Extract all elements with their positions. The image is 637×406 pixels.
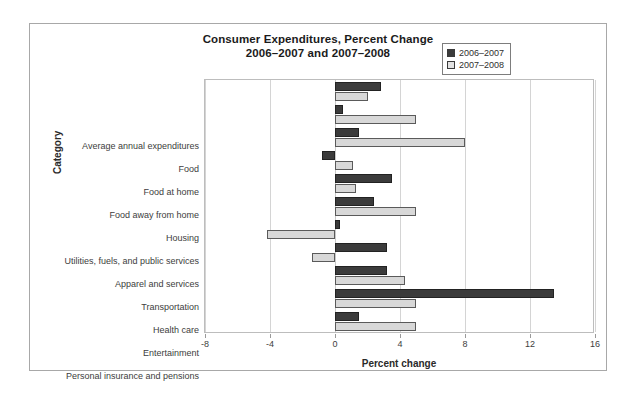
y-axis-label: Food xyxy=(0,164,199,174)
x-tick-label: 16 xyxy=(590,339,600,349)
bar xyxy=(335,197,374,206)
chart-title-line-2: 2006–2007 and 2007–2008 xyxy=(30,46,606,60)
bar xyxy=(335,115,416,124)
x-tick-label: 12 xyxy=(525,339,535,349)
x-tick-mark xyxy=(530,334,531,338)
y-axis-label: Transportation xyxy=(0,302,199,312)
bar xyxy=(312,253,335,262)
x-tick-mark xyxy=(400,334,401,338)
bar xyxy=(335,128,359,137)
bar xyxy=(335,105,343,114)
chart-title-line-1: Consumer Expenditures, Percent Change xyxy=(203,33,434,45)
bar xyxy=(335,266,387,275)
bar xyxy=(322,151,335,160)
y-axis-label: Food away from home xyxy=(0,210,199,220)
bar xyxy=(335,184,356,193)
bar xyxy=(335,289,554,298)
gridline xyxy=(205,80,206,332)
gridline xyxy=(595,80,596,332)
y-axis-label: Health care xyxy=(0,325,199,335)
x-tick-label: -4 xyxy=(266,339,274,349)
x-tick-label: 4 xyxy=(397,339,402,349)
chart-legend: 2006–20072007–2008 xyxy=(442,43,511,75)
y-axis-label: Entertainment xyxy=(0,348,199,358)
bar xyxy=(267,230,335,239)
x-tick-mark xyxy=(335,334,336,338)
bar xyxy=(335,312,359,321)
bar xyxy=(335,92,368,101)
gridline xyxy=(270,80,271,332)
x-axis-title: Percent change xyxy=(205,358,593,369)
chart-figure: Consumer Expenditures, Percent Change 20… xyxy=(29,23,607,371)
bar xyxy=(335,322,416,331)
y-axis-label: Housing xyxy=(0,233,199,243)
legend-swatch-icon xyxy=(447,49,455,57)
chart-title: Consumer Expenditures, Percent Change 20… xyxy=(30,32,606,60)
bar xyxy=(335,243,387,252)
bar xyxy=(335,174,392,183)
legend-label: 2007–2008 xyxy=(459,60,504,70)
legend-item: 2006–2007 xyxy=(447,47,504,59)
bar xyxy=(335,82,381,91)
y-axis-label: Apparel and services xyxy=(0,279,199,289)
x-tick-mark xyxy=(205,334,206,338)
x-tick-label: -8 xyxy=(201,339,209,349)
legend-swatch-icon xyxy=(447,61,455,69)
x-tick-mark xyxy=(595,334,596,338)
y-axis-label: Personal insurance and pensions xyxy=(0,371,199,381)
bar xyxy=(335,276,405,285)
x-tick-mark xyxy=(465,334,466,338)
x-tick-mark xyxy=(270,334,271,338)
legend-item: 2007–2008 xyxy=(447,59,504,71)
bar xyxy=(335,220,340,229)
bar xyxy=(335,299,416,308)
legend-label: 2006–2007 xyxy=(459,48,504,58)
plot-area: Average annual expendituresFoodFood at h… xyxy=(204,79,594,333)
x-tick-label: 0 xyxy=(332,339,337,349)
y-axis-label: Average annual expenditures xyxy=(0,141,199,151)
y-axis-labels: Average annual expendituresFoodFood at h… xyxy=(0,135,199,389)
y-axis-label: Food at home xyxy=(0,187,199,197)
bar xyxy=(335,138,465,147)
bar xyxy=(335,207,416,216)
bar xyxy=(335,161,353,170)
y-axis-label: Utilities, fuels, and public services xyxy=(0,256,199,266)
x-tick-label: 8 xyxy=(462,339,467,349)
